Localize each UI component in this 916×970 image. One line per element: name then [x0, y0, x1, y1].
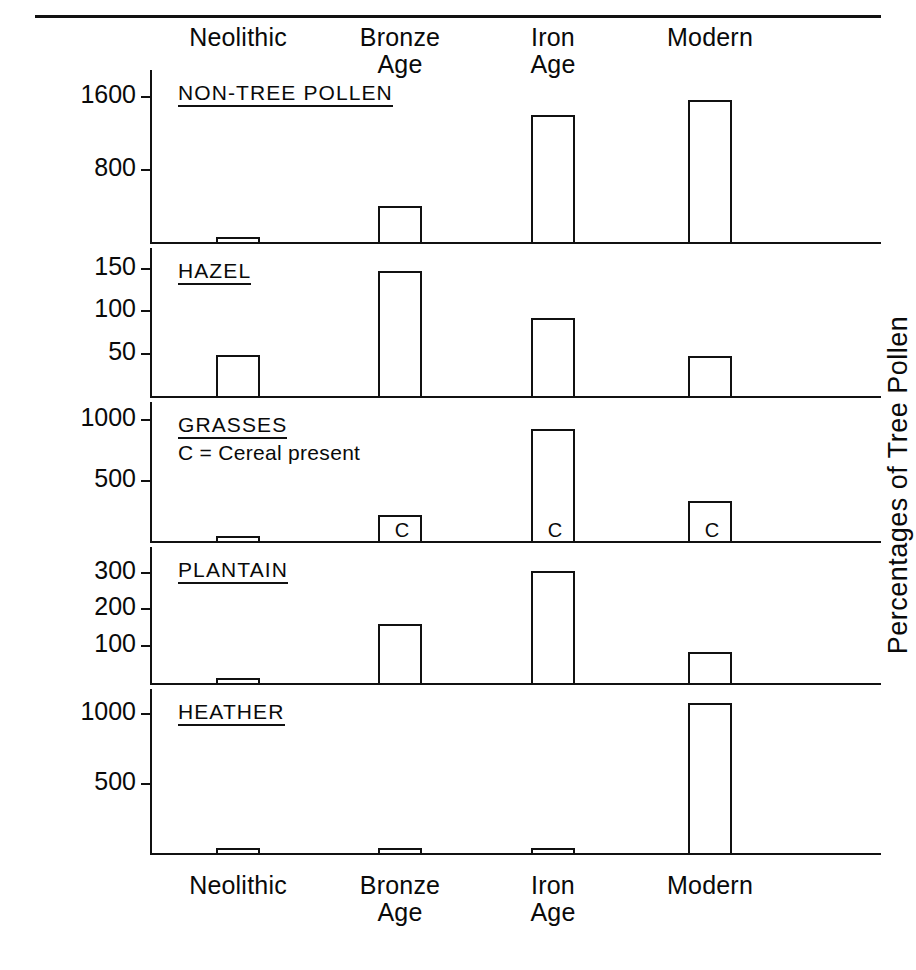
panel-title-5: HEATHER — [178, 701, 285, 726]
panel-title-3: GRASSES — [178, 414, 287, 439]
y-tick-5-1 — [141, 783, 150, 785]
y-tick-5-2 — [141, 713, 150, 715]
y-tick-label-5-1: 500 — [10, 769, 136, 794]
bar-heather-modern — [688, 703, 732, 853]
bar-hazel-modern — [688, 356, 732, 396]
bar-heather-neolithic — [216, 848, 260, 853]
y-tick-label-3-1: 500 — [10, 466, 136, 491]
column-footer-4: Modern — [620, 872, 800, 899]
y-tick-1-1 — [141, 169, 150, 171]
bar-grasses-iron-age: C — [531, 429, 575, 541]
cereal-marker: C — [690, 520, 734, 540]
bar-hazel-iron-age — [531, 318, 575, 396]
y-tick-label-4-1: 100 — [10, 631, 136, 656]
y-tick-3-2 — [141, 419, 150, 421]
panel-axis-spine-1 — [150, 70, 152, 244]
bar-grasses-bronze-age: C — [378, 515, 422, 541]
bar-plantain-neolithic — [216, 678, 260, 683]
bar-heather-bronze-age — [378, 848, 422, 853]
bar-hazel-neolithic — [216, 355, 260, 396]
y-tick-4-3 — [141, 572, 150, 574]
y-tick-2-2 — [141, 310, 150, 312]
y-tick-label-2-1: 50 — [10, 339, 136, 364]
column-footer-3: Iron Age — [463, 872, 643, 926]
bar-grasses-neolithic — [216, 536, 260, 541]
bar-grasses-modern: C — [688, 501, 732, 541]
bar-non-tree-pollen-iron-age — [531, 115, 575, 242]
y-tick-label-2-2: 100 — [10, 296, 136, 321]
panel-baseline-3 — [150, 541, 881, 543]
panel-axis-spine-5 — [150, 689, 152, 855]
y-tick-1-2 — [141, 96, 150, 98]
y-tick-label-4-2: 200 — [10, 594, 136, 619]
bar-plantain-modern — [688, 652, 732, 683]
panel-axis-spine-4 — [150, 547, 152, 685]
y-tick-4-1 — [141, 645, 150, 647]
bar-heather-iron-age — [531, 848, 575, 853]
bar-non-tree-pollen-bronze-age — [378, 206, 422, 242]
y-tick-3-1 — [141, 480, 150, 482]
panel-baseline-1 — [150, 242, 881, 244]
pollen-diagram: NeolithicBronze AgeIron AgeModern8001600… — [0, 0, 916, 970]
panel-title-4: PLANTAIN — [178, 559, 288, 584]
y-tick-2-1 — [141, 353, 150, 355]
panel-baseline-4 — [150, 683, 881, 685]
right-axis-title: Percentages of Tree Pollen — [878, 0, 916, 970]
bar-plantain-iron-age — [531, 571, 575, 683]
bar-plantain-bronze-age — [378, 624, 422, 683]
panel-axis-spine-2 — [150, 248, 152, 398]
column-header-1: Neolithic — [148, 24, 328, 51]
right-axis-title-text: Percentages of Tree Pollen — [883, 316, 914, 655]
y-tick-label-3-2: 1000 — [10, 405, 136, 430]
y-tick-2-3 — [141, 268, 150, 270]
y-tick-label-5-2: 1000 — [10, 699, 136, 724]
cereal-marker: C — [380, 520, 424, 540]
y-tick-4-2 — [141, 608, 150, 610]
column-footer-1: Neolithic — [148, 872, 328, 899]
column-header-4: Modern — [620, 24, 800, 51]
y-tick-label-1-1: 800 — [10, 155, 136, 180]
panel-title-1: NON-TREE POLLEN — [178, 82, 393, 107]
panel-baseline-2 — [150, 396, 881, 398]
bar-non-tree-pollen-modern — [688, 100, 732, 242]
panel-axis-spine-3 — [150, 402, 152, 543]
panel-title-2: HAZEL — [178, 260, 251, 285]
panel-baseline-5 — [150, 853, 881, 855]
bar-non-tree-pollen-neolithic — [216, 237, 260, 242]
column-header-3: Iron Age — [463, 24, 643, 78]
y-tick-label-2-3: 150 — [10, 254, 136, 279]
panel-note-3: C = Cereal present — [178, 442, 360, 464]
cereal-marker: C — [533, 520, 577, 540]
y-tick-label-4-3: 300 — [10, 558, 136, 583]
y-tick-label-1-2: 1600 — [10, 82, 136, 107]
bar-hazel-bronze-age — [378, 271, 422, 396]
